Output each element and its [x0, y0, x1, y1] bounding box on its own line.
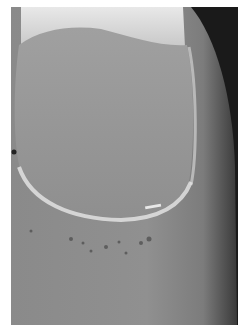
dark-spot	[12, 150, 17, 155]
fingernail-photo	[11, 7, 238, 325]
nail-plate	[15, 28, 194, 218]
fingernail-illustration	[11, 7, 238, 325]
